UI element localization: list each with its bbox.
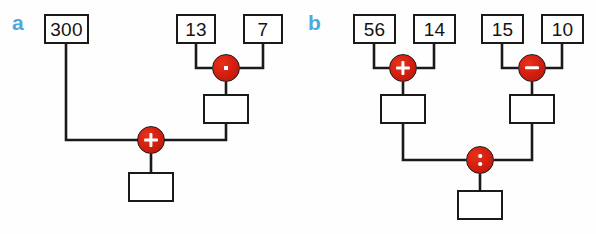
figure-canvas: a 300 13 7 b 56 14 15 10 <box>0 0 596 234</box>
panel-label-b: b <box>308 12 321 33</box>
operator-minus-b[interactable] <box>518 54 546 82</box>
wire-300-to-plus <box>66 44 140 140</box>
result-final-b[interactable] <box>457 190 503 220</box>
plus-icon <box>138 127 164 153</box>
wire-7-to-times <box>240 44 263 68</box>
result-final-a[interactable] <box>128 172 174 202</box>
wire-10-to-minus <box>546 44 562 68</box>
operator-plus-b[interactable] <box>389 54 417 82</box>
result-right-intermediate-b[interactable] <box>509 94 555 124</box>
input-300[interactable]: 300 <box>44 14 89 44</box>
operator-times[interactable] <box>212 54 240 82</box>
result-left-intermediate-b[interactable] <box>380 94 426 124</box>
input-56[interactable]: 56 <box>353 14 396 44</box>
panel-label-a: a <box>12 12 24 33</box>
minus-icon <box>519 55 545 81</box>
operator-plus-a[interactable] <box>137 126 165 154</box>
input-10[interactable]: 10 <box>541 14 584 44</box>
input-15[interactable]: 15 <box>481 14 524 44</box>
wire-15-to-minus <box>502 44 518 68</box>
input-13[interactable]: 13 <box>176 14 216 44</box>
wire-leftbox-to-divide <box>403 124 466 160</box>
wire-rightbox-to-divide <box>494 124 532 160</box>
wire-13-to-times <box>196 44 212 68</box>
input-14[interactable]: 14 <box>413 14 456 44</box>
wire-56-to-plus <box>374 44 389 68</box>
input-7[interactable]: 7 <box>243 14 283 44</box>
divide-icon <box>467 147 493 173</box>
plus-icon <box>390 55 416 81</box>
result-intermediate-a[interactable] <box>203 94 249 124</box>
multiply-icon <box>213 55 239 81</box>
operator-divide-b[interactable] <box>466 146 494 174</box>
wire-box-to-plus <box>162 124 226 140</box>
wire-14-to-plus <box>417 44 434 68</box>
